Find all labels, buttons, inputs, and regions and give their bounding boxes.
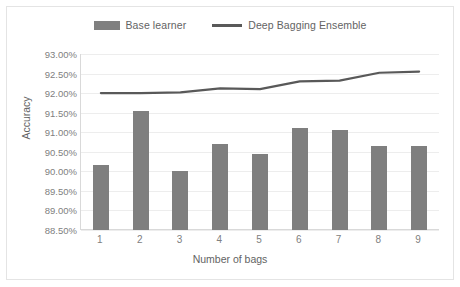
y-tick-label: 89.50% bbox=[31, 185, 77, 196]
plot-area bbox=[80, 54, 439, 230]
line-polyline bbox=[101, 72, 419, 94]
x-tick-label: 7 bbox=[319, 234, 359, 245]
y-tick-label: 90.00% bbox=[31, 166, 77, 177]
x-tick-label: 9 bbox=[398, 234, 438, 245]
legend-line-swatch-icon bbox=[212, 24, 242, 27]
y-tick-label: 92.50% bbox=[31, 68, 77, 79]
x-tick-label: 4 bbox=[199, 234, 239, 245]
y-tick-label: 89.00% bbox=[31, 205, 77, 216]
y-axis-tick-labels: 93.00%92.50%92.00%91.50%91.00%90.50%90.0… bbox=[31, 47, 77, 242]
chart-container: Base learner Deep Bagging Ensemble Accur… bbox=[6, 6, 454, 280]
gridline bbox=[81, 230, 439, 231]
legend-item-base-learner: Base learner bbox=[94, 19, 187, 31]
line-series-deep-bagging-ensemble bbox=[81, 54, 439, 230]
x-tick-label: 6 bbox=[279, 234, 319, 245]
y-tick-label: 90.50% bbox=[31, 146, 77, 157]
x-axis-tick-labels: 123456789 bbox=[80, 234, 438, 245]
y-tick-label: 92.00% bbox=[31, 88, 77, 99]
legend-label-deep-bagging-ensemble: Deep Bagging Ensemble bbox=[248, 19, 366, 31]
x-tick-label: 5 bbox=[239, 234, 279, 245]
y-tick-label: 88.50% bbox=[31, 225, 77, 236]
legend-bar-swatch-icon bbox=[94, 21, 120, 30]
y-tick-label: 91.50% bbox=[31, 107, 77, 118]
chart-legend: Base learner Deep Bagging Ensemble bbox=[7, 19, 453, 31]
x-tick-label: 1 bbox=[80, 234, 120, 245]
x-tick-label: 2 bbox=[120, 234, 160, 245]
x-tick-label: 3 bbox=[160, 234, 200, 245]
y-tick-label: 93.00% bbox=[31, 49, 77, 60]
legend-label-base-learner: Base learner bbox=[126, 19, 187, 31]
x-axis-title: Number of bags bbox=[7, 253, 453, 265]
y-tick-label: 91.00% bbox=[31, 127, 77, 138]
x-tick-label: 8 bbox=[358, 234, 398, 245]
legend-item-deep-bagging-ensemble: Deep Bagging Ensemble bbox=[212, 19, 366, 31]
